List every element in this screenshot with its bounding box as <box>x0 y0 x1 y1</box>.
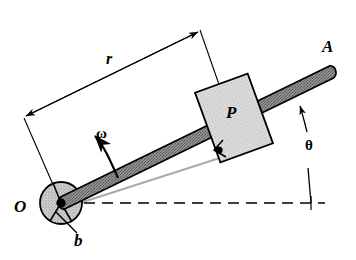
label-angular-velocity-omega: ω <box>96 126 107 141</box>
label-angle-theta: θ <box>305 138 313 153</box>
label-pivot-O: O <box>14 198 26 215</box>
slider-pin-dot <box>215 146 222 153</box>
label-radius-r: r <box>106 51 112 67</box>
label-offset-b: b <box>74 232 83 249</box>
mechanism-diagram <box>0 0 356 260</box>
pivot-center-dot <box>57 199 65 207</box>
label-slider-P: P <box>226 104 236 121</box>
label-rod-end-A: A <box>322 38 333 55</box>
